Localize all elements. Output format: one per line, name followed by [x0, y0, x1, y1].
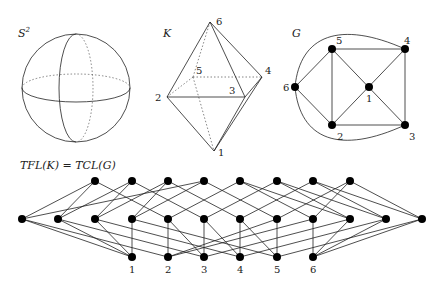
- lattice-node-top: [236, 177, 244, 185]
- lattice-bottom-label: 2: [165, 264, 171, 275]
- sphere-equator-back: [22, 74, 130, 88]
- lattice-edge: [132, 181, 168, 219]
- lattice-node-top: [200, 177, 208, 185]
- lattice-title: TFL(K) = TCL(G): [20, 159, 116, 172]
- edge-5-1: [193, 77, 214, 151]
- lattice-node-middle: [273, 215, 281, 223]
- lattice-node-top: [309, 177, 317, 185]
- lattice-edge: [240, 181, 350, 219]
- lattice-edge: [22, 181, 204, 219]
- sphere-title: S2: [18, 26, 31, 40]
- graph-node-label: 4: [404, 35, 410, 46]
- lattice-edge: [168, 219, 204, 257]
- lattice-node-middle: [346, 215, 354, 223]
- lattice-node-top: [346, 177, 354, 185]
- lattice-edge: [58, 181, 95, 219]
- graph-node: [365, 83, 373, 91]
- lattice-bottom-label: 5: [274, 264, 280, 275]
- sphere-figure: S2: [18, 26, 130, 142]
- complex-title: K: [162, 27, 172, 40]
- lattice-node-middle: [236, 215, 244, 223]
- lattice-node-middle: [91, 215, 99, 223]
- lattice-node-middle: [164, 215, 172, 223]
- edge-3-1: [214, 97, 245, 151]
- graph-edge-6-2: [295, 87, 332, 125]
- lattice-node-top: [164, 177, 172, 185]
- lattice-edge: [58, 181, 132, 219]
- graph-title: G: [292, 27, 301, 40]
- lattice-node-top: [91, 177, 99, 185]
- lattice-bottom-label: 1: [129, 264, 135, 275]
- sphere-meridian-front: [59, 34, 76, 142]
- graph-edge-6-5: [295, 49, 332, 87]
- lattice-node-top: [273, 177, 281, 185]
- lattice-edge: [204, 219, 240, 257]
- lattice-node-middle: [54, 215, 62, 223]
- diagram-canvas: S2 K 123456 G 12345: [0, 0, 445, 286]
- graph-node: [328, 121, 336, 129]
- lattice-edge: [22, 181, 95, 219]
- edge-6-4: [210, 22, 262, 77]
- graph-figure: G 123456: [283, 27, 415, 142]
- lattice-edge: [240, 219, 277, 257]
- lattice-edge: [313, 181, 422, 219]
- complex-vertex-label: 2: [155, 92, 161, 103]
- lattice-bottom-label: 3: [201, 264, 207, 275]
- graph-node-label: 1: [366, 93, 372, 104]
- edge-6-2: [167, 22, 210, 97]
- complex-vertex-label: 4: [265, 65, 271, 76]
- lattice-edge: [313, 181, 350, 219]
- graph-node: [291, 83, 299, 91]
- lattice-edge: [95, 219, 240, 257]
- edge-6-3: [210, 22, 245, 97]
- lattice-node-bottom: [273, 253, 281, 261]
- complex-vertex-label: 1: [218, 147, 224, 158]
- lattice-node-middle: [18, 215, 26, 223]
- graph-nodes: 123456: [283, 35, 415, 142]
- graph-node-label: 3: [409, 131, 415, 142]
- lattice-figure: TFL(K) = TCL(G) 123456: [18, 159, 426, 275]
- lattice-edge: [58, 219, 204, 257]
- lattice-node-middle: [128, 215, 136, 223]
- lattice-edge: [95, 219, 132, 257]
- edge-3-4: [245, 77, 262, 97]
- lattice-bottom-label: 4: [237, 264, 243, 275]
- lattice-bottom-label: 6: [310, 264, 316, 275]
- lattice-edge: [313, 181, 386, 219]
- lattice-node-bottom: [200, 253, 208, 261]
- graph-node-label: 5: [336, 35, 342, 46]
- lattice-node-bottom: [309, 253, 317, 261]
- edge-4-1: [214, 77, 262, 151]
- lattice-node-bottom: [128, 253, 136, 261]
- graph-node-label: 2: [337, 131, 343, 142]
- graph-node: [328, 45, 336, 53]
- edge-5-2: [167, 77, 193, 97]
- lattice-edge: [132, 219, 277, 257]
- sphere-meridian-back: [76, 34, 93, 142]
- lattice-edge: [350, 181, 422, 219]
- lattice-node-middle: [418, 215, 426, 223]
- complex-vertex-label: 5: [196, 65, 202, 76]
- lattice-edges: [22, 181, 422, 257]
- complex-vertex-label: 6: [216, 16, 222, 27]
- lattice-node-bottom: [164, 253, 172, 261]
- edge-2-1: [167, 97, 214, 151]
- lattice-node-top: [128, 177, 136, 185]
- lattice-node-middle: [200, 215, 208, 223]
- lattice-node-middle: [309, 215, 317, 223]
- lattice-node-bottom: [236, 253, 244, 261]
- lattice-edge: [22, 219, 168, 257]
- graph-node-label: 6: [283, 82, 289, 93]
- lattice-edge: [313, 219, 350, 257]
- graph-node: [401, 45, 409, 53]
- lattice-edge: [313, 219, 386, 257]
- complex-vertex-label: 3: [229, 85, 235, 96]
- octahedron-figure: K 123456: [155, 16, 271, 158]
- graph-edge-6-3: [295, 87, 405, 140]
- graph-node: [401, 121, 409, 129]
- sphere-equator-front: [22, 88, 130, 102]
- lattice-edge: [168, 219, 313, 257]
- sphere-outline: [22, 34, 130, 142]
- graph-edge-6-4: [295, 34, 405, 87]
- lattice-node-middle: [382, 215, 390, 223]
